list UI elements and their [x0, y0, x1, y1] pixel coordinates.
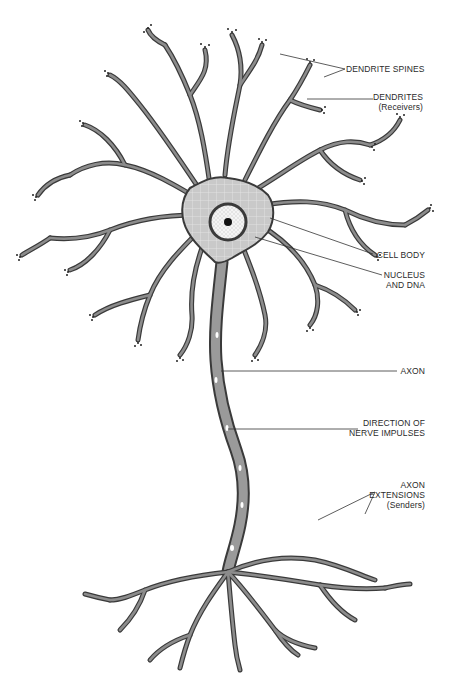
label-nucleus-line1: NUCLEUS [384, 270, 425, 280]
label-nucleus-line2: AND DNA [384, 280, 425, 290]
label-dendrites: DENDRITES (Receivers) [373, 92, 423, 112]
label-axon-ext-sub: (Senders) [369, 500, 425, 510]
label-dendrite-spines: DENDRITE SPINES [346, 64, 425, 74]
axon-extensions [85, 558, 410, 670]
label-axon-ext-line1: AXON [369, 480, 425, 490]
label-direction-nerve-impulses: DIRECTION OF NERVE IMPULSES [349, 418, 425, 438]
axon [215, 262, 244, 572]
nucleus [210, 204, 246, 240]
label-dendrites-sub: (Receivers) [373, 102, 423, 112]
label-axon-extensions: AXON EXTENSIONS (Senders) [369, 480, 425, 510]
label-axon-ext-line2: EXTENSIONS [369, 490, 425, 500]
label-cell-body: CELL BODY [377, 250, 425, 260]
label-direction-line1: DIRECTION OF [349, 418, 425, 428]
label-dendrites-title: DENDRITES [373, 92, 423, 102]
label-axon: AXON [401, 366, 426, 376]
label-nucleus-dna: NUCLEUS AND DNA [384, 270, 425, 290]
nucleolus [224, 218, 232, 226]
label-direction-line2: NERVE IMPULSES [349, 428, 425, 438]
leader-lines [221, 54, 397, 520]
